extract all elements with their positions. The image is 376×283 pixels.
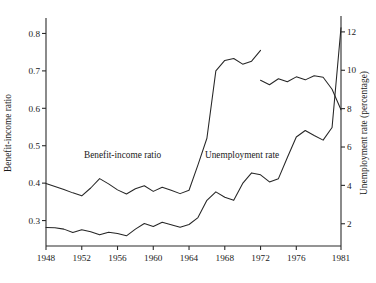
x-tick-label: 1964	[180, 253, 199, 263]
axes-group	[46, 16, 341, 246]
x-tick-label: 1960	[144, 253, 163, 263]
series-line	[46, 28, 341, 236]
benefit-income-annotation: Benefit-income ratio	[84, 150, 162, 160]
unemployment-annotation: Unemployment rate	[205, 150, 279, 160]
left-axis-title: Benefit-income ratio	[3, 94, 13, 172]
right-tick-label: 8	[347, 104, 352, 114]
right-tick-label: 12	[347, 27, 357, 37]
chart-figure: 0.30.40.50.60.70.8 24681012 194819521956…	[0, 0, 376, 283]
x-tick-label: 1948	[37, 253, 56, 263]
x-axis-ticks: 194819521956196019641968197219761981	[37, 246, 351, 263]
series-line	[261, 76, 341, 110]
series-line	[46, 50, 261, 196]
left-tick-label: 0.3	[29, 216, 41, 226]
left-tick-label: 0.7	[29, 66, 41, 76]
left-tick-label: 0.6	[29, 104, 41, 114]
x-tick-label: 1981	[332, 253, 351, 263]
chart-canvas: 0.30.40.50.60.70.8 24681012 194819521956…	[0, 0, 376, 283]
right-tick-label: 4	[347, 181, 352, 191]
x-tick-label: 1976	[287, 253, 306, 263]
x-tick-label: 1972	[251, 253, 270, 263]
x-tick-label: 1952	[73, 253, 92, 263]
series-annotations: Benefit-income ratioUnemployment rate	[84, 150, 279, 160]
x-tick-label: 1956	[108, 253, 127, 263]
right-axis-title: Unemployment rate (percentage)	[359, 71, 370, 195]
right-tick-label: 2	[347, 219, 352, 229]
left-tick-label: 0.5	[29, 141, 41, 151]
left-tick-label: 0.4	[29, 178, 41, 188]
right-tick-label: 10	[347, 65, 357, 75]
left-tick-label: 0.8	[29, 29, 41, 39]
right-tick-label: 6	[347, 142, 352, 152]
data-series-group	[46, 28, 341, 236]
left-axis-ticks: 0.30.40.50.60.70.8	[29, 29, 46, 226]
x-tick-label: 1968	[216, 253, 235, 263]
right-axis-ticks: 24681012	[341, 27, 357, 229]
